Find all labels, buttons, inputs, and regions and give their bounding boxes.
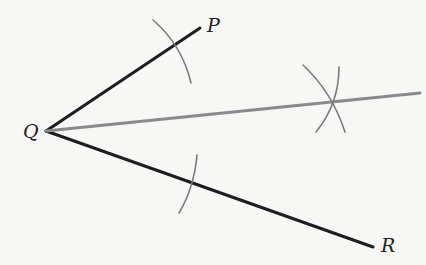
angle-bisector-diagram (0, 0, 426, 265)
point-label-q: Q (23, 122, 39, 141)
intersection-arc-from-r (316, 67, 339, 132)
ray-qp (46, 28, 200, 131)
point-label-r: R (381, 236, 395, 255)
ray-qr (46, 131, 373, 247)
arc-on-qp (153, 20, 191, 83)
angle-bisector (46, 93, 420, 131)
point-label-p: P (207, 16, 220, 35)
